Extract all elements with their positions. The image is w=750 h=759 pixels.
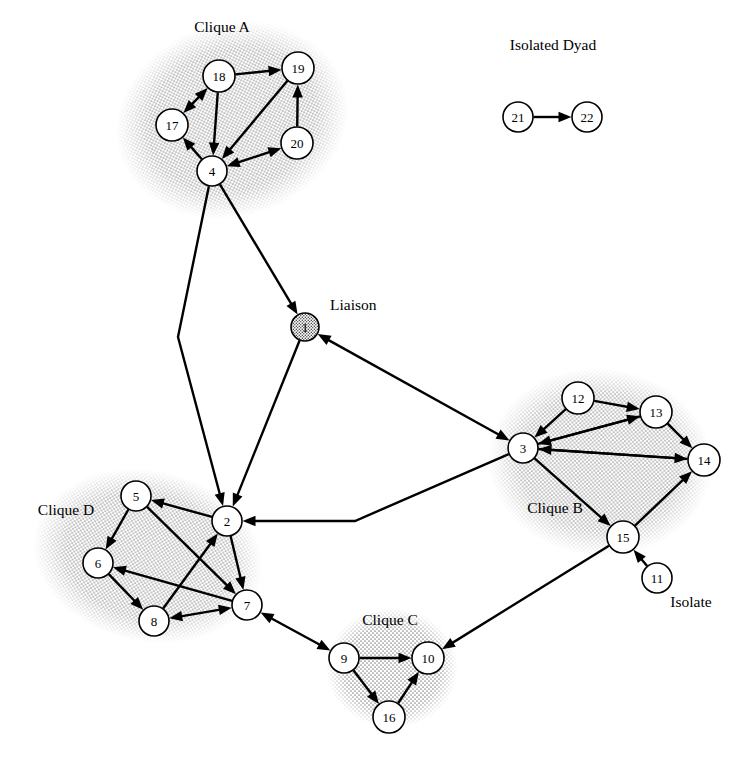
node-18[interactable]: 18 bbox=[203, 60, 235, 92]
node-22[interactable]: 22 bbox=[572, 102, 602, 132]
node-label-5: 5 bbox=[133, 489, 140, 504]
network-diagram-canvas: 12345678910111213141516171819202122 Cliq… bbox=[0, 0, 750, 759]
arrowhead-4-to-1 bbox=[286, 301, 297, 315]
node-label-21: 21 bbox=[512, 110, 525, 125]
node-10[interactable]: 10 bbox=[412, 642, 444, 674]
label-clique-a: Clique A bbox=[194, 18, 250, 35]
node-label-14: 14 bbox=[698, 453, 712, 468]
node-label-19: 19 bbox=[292, 61, 305, 76]
label-clique-d: Clique D bbox=[38, 501, 94, 518]
node-8[interactable]: 8 bbox=[139, 606, 169, 636]
node-6[interactable]: 6 bbox=[83, 548, 113, 578]
node-17[interactable]: 17 bbox=[156, 109, 188, 141]
edge-15-to-10 bbox=[450, 546, 609, 645]
node-13[interactable]: 13 bbox=[640, 396, 672, 428]
node-label-7: 7 bbox=[244, 598, 251, 613]
arrowhead-9-to-7 bbox=[261, 612, 275, 623]
node-20[interactable]: 20 bbox=[281, 127, 313, 159]
edge-1-to-3 bbox=[325, 338, 501, 436]
node-label-10: 10 bbox=[422, 651, 435, 666]
label-clique-b: Clique B bbox=[527, 499, 583, 516]
node-label-11: 11 bbox=[651, 571, 664, 586]
label-liaison: Liaison bbox=[330, 296, 377, 313]
node-label-15: 15 bbox=[617, 530, 630, 545]
node-label-16: 16 bbox=[383, 710, 397, 725]
node-label-20: 20 bbox=[291, 136, 304, 151]
node-21[interactable]: 21 bbox=[503, 102, 533, 132]
node-label-22: 22 bbox=[581, 110, 594, 125]
edge-1-to-2 bbox=[236, 340, 300, 498]
node-label-18: 18 bbox=[213, 69, 226, 84]
node-3[interactable]: 3 bbox=[508, 433, 538, 463]
label-isolated-dyad: Isolated Dyad bbox=[510, 36, 597, 53]
node-label-4: 4 bbox=[209, 164, 216, 179]
network-graph-svg: 12345678910111213141516171819202122 Cliq… bbox=[0, 0, 750, 759]
arrowhead-3-to-1 bbox=[318, 334, 332, 345]
node-label-3: 3 bbox=[520, 441, 527, 456]
edge-7-to-9 bbox=[268, 617, 322, 647]
node-9[interactable]: 9 bbox=[329, 643, 359, 673]
arrowhead-21-to-22 bbox=[559, 112, 572, 122]
node-label-2: 2 bbox=[224, 514, 231, 529]
node-1[interactable]: 1 bbox=[291, 313, 319, 341]
node-7[interactable]: 7 bbox=[232, 590, 262, 620]
label-isolate: Isolate bbox=[670, 593, 711, 610]
edge-3-to-2 bbox=[251, 454, 508, 521]
node-label-1: 1 bbox=[302, 320, 309, 335]
node-4[interactable]: 4 bbox=[197, 156, 227, 186]
clique-blob-clique-a bbox=[82, 0, 382, 256]
node-2[interactable]: 2 bbox=[212, 506, 242, 536]
label-clique-c: Clique C bbox=[362, 611, 418, 628]
node-12[interactable]: 12 bbox=[562, 382, 594, 414]
node-5[interactable]: 5 bbox=[121, 481, 151, 511]
node-14[interactable]: 14 bbox=[688, 444, 720, 476]
node-label-6: 6 bbox=[95, 556, 102, 571]
node-label-13: 13 bbox=[650, 405, 663, 420]
node-11[interactable]: 11 bbox=[642, 563, 672, 593]
node-19[interactable]: 19 bbox=[282, 52, 314, 84]
node-label-12: 12 bbox=[572, 391, 585, 406]
node-label-17: 17 bbox=[166, 118, 180, 133]
node-label-9: 9 bbox=[341, 651, 348, 666]
node-16[interactable]: 16 bbox=[373, 701, 405, 733]
edge-4-to-2 bbox=[178, 186, 221, 497]
node-15[interactable]: 15 bbox=[607, 521, 639, 553]
node-label-8: 8 bbox=[151, 614, 158, 629]
